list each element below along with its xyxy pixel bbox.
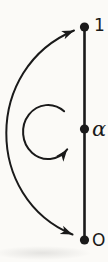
point-label-one: 1 xyxy=(94,15,105,35)
figure-canvas: 1αO xyxy=(0,0,108,262)
rotation-loop-arrow xyxy=(23,105,67,159)
point-label-origin: O xyxy=(92,230,105,250)
point-dot-origin xyxy=(80,235,89,244)
point-dot-alpha xyxy=(80,124,89,133)
figure-content: 1αO xyxy=(6,15,106,250)
point-dot-one xyxy=(80,22,89,31)
figure-wrap: 1αO xyxy=(0,0,108,262)
outer-double-arrow-arc xyxy=(6,31,74,235)
point-label-alpha: α xyxy=(92,117,106,141)
